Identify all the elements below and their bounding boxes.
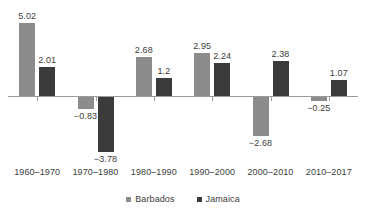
x-axis-tick — [37, 97, 38, 101]
zero-axis-line — [8, 96, 358, 97]
legend-item-jamaica[interactable]: Jamaica — [197, 194, 240, 205]
value-label: 2.68 — [129, 45, 159, 55]
legend-label: Barbados — [135, 194, 174, 205]
value-label: 1.2 — [149, 66, 179, 76]
category-label: 1960–1970 — [8, 166, 66, 178]
bar-barbados-1 — [78, 97, 94, 109]
x-axis-tick — [329, 97, 330, 101]
category-label: 1970–1980 — [66, 166, 124, 178]
value-label: 2.38 — [266, 49, 296, 59]
value-label: 2.01 — [32, 55, 62, 65]
bar-jamaica-0 — [39, 67, 55, 96]
category-label: 2000–2010 — [241, 166, 299, 178]
value-label: 1.07 — [324, 68, 354, 78]
value-label: 2.95 — [187, 41, 217, 51]
chart-legend: BarbadosJamaica — [0, 192, 366, 206]
grouped-bar-chart: 5.022.01−0.83−3.782.681.22.952.24−2.682.… — [0, 0, 366, 214]
bar-barbados-4 — [253, 97, 269, 136]
x-axis-tick — [154, 97, 155, 101]
value-label: −3.78 — [91, 154, 121, 164]
legend-label: Jamaica — [206, 194, 240, 205]
value-label: −2.68 — [246, 138, 276, 148]
bar-barbados-5 — [311, 97, 327, 101]
bar-jamaica-1 — [98, 97, 114, 152]
legend-item-barbados[interactable]: Barbados — [126, 194, 174, 205]
bar-jamaica-3 — [214, 63, 230, 96]
plot-area: 5.022.01−0.83−3.782.681.22.952.24−2.682.… — [0, 0, 366, 162]
value-label: −0.83 — [71, 111, 101, 121]
square-marker-icon — [126, 197, 131, 202]
value-label: −0.25 — [304, 103, 334, 113]
x-axis-category-labels: 1960–19701970–19801980–19901990–20002000… — [0, 166, 366, 182]
x-axis-tick — [212, 97, 213, 101]
bar-jamaica-5 — [331, 80, 347, 96]
category-label: 1980–1990 — [125, 166, 183, 178]
value-label: 5.02 — [12, 11, 42, 21]
bar-jamaica-2 — [156, 78, 172, 96]
square-marker-icon — [197, 197, 202, 202]
bar-jamaica-4 — [273, 61, 289, 96]
x-axis-tick — [271, 97, 272, 101]
category-label: 1990–2000 — [183, 166, 241, 178]
category-label: 2010–2017 — [300, 166, 358, 178]
value-label: 2.24 — [207, 51, 237, 61]
